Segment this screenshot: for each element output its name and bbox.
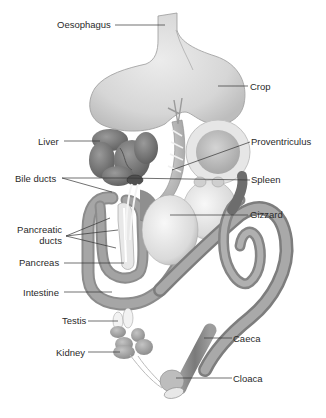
kidney-testis-group — [110, 308, 164, 388]
liver-organ — [89, 129, 158, 186]
label-crop: Crop — [250, 81, 271, 92]
label-bile-ducts: Bile ducts — [15, 173, 56, 184]
label-oesophagus: Oesophagus — [57, 19, 111, 30]
cloaca-organ — [160, 370, 185, 400]
label-pancreatic-ducts-line1: Pancreatic — [14, 224, 62, 235]
label-cloaca: Cloaca — [233, 373, 263, 384]
label-liver: Liver — [38, 136, 59, 147]
label-testis: Testis — [62, 315, 86, 326]
label-proventriculus: Proventriculus — [251, 136, 311, 147]
label-intestine: Intestine — [23, 287, 59, 298]
label-pancreas: Pancreas — [19, 257, 59, 268]
label-kidney: Kidney — [56, 347, 85, 358]
label-caeca: Caeca — [233, 333, 260, 344]
spleen-organ — [127, 175, 143, 185]
label-gizzard: Gizzard — [250, 209, 283, 220]
label-pancreatic-ducts-line2: ducts — [14, 235, 62, 246]
label-spleen: Spleen — [251, 174, 281, 185]
crop-organ — [90, 13, 245, 131]
